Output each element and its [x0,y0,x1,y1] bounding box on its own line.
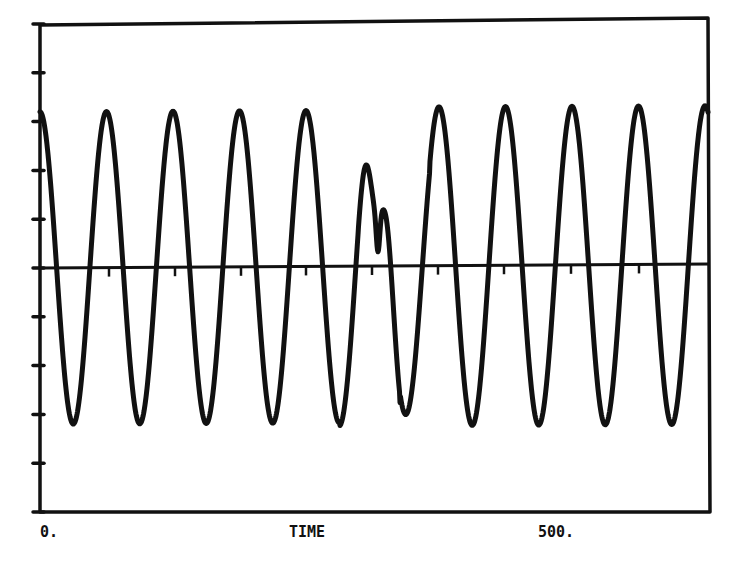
x-axis-label: TIME [289,523,325,541]
x-tick-label-500: 500. [538,523,574,541]
zero-line [40,264,710,268]
chart-plot [0,0,730,563]
x-tick-label-0: 0. [40,523,58,541]
